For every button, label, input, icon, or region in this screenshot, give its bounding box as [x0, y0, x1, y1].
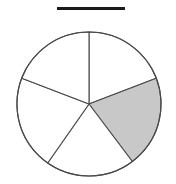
pie-chart: [0, 0, 176, 184]
pie-sector-group: [17, 32, 161, 176]
pie-fraction-figure: [0, 0, 176, 184]
